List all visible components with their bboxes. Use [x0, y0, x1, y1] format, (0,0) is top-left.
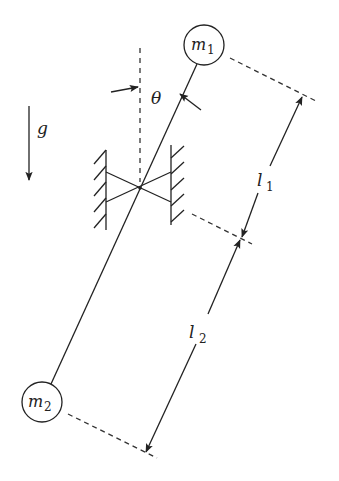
mass-m1-symbol: m: [191, 35, 206, 54]
left-wall: [94, 150, 106, 230]
length-l1-subscript: 1: [266, 180, 274, 194]
torsion-spring: [106, 172, 171, 202]
angle-label: θ: [151, 88, 161, 108]
gravity-label: g: [37, 118, 48, 138]
mass-m1-subscript: 1: [207, 43, 215, 57]
mass-m2-subscript: 2: [44, 400, 52, 414]
length-l2-subscript: 2: [199, 332, 207, 346]
mass-m2-symbol: m: [28, 392, 43, 411]
mass-m1: m 1: [184, 25, 224, 65]
right-wall: [171, 145, 184, 225]
pivot-point: [138, 186, 142, 190]
length-l2-dimension: [146, 240, 240, 452]
pendulum-rod: [51, 64, 197, 384]
length-l2-symbol: l: [189, 322, 194, 342]
mass-m2: m 2: [22, 382, 62, 422]
length-l1-dimension: [242, 97, 302, 237]
dimension-extension-lines: [68, 58, 318, 458]
length-l1-symbol: l: [257, 170, 262, 190]
pendulum-diagram: g θ: [0, 0, 339, 481]
